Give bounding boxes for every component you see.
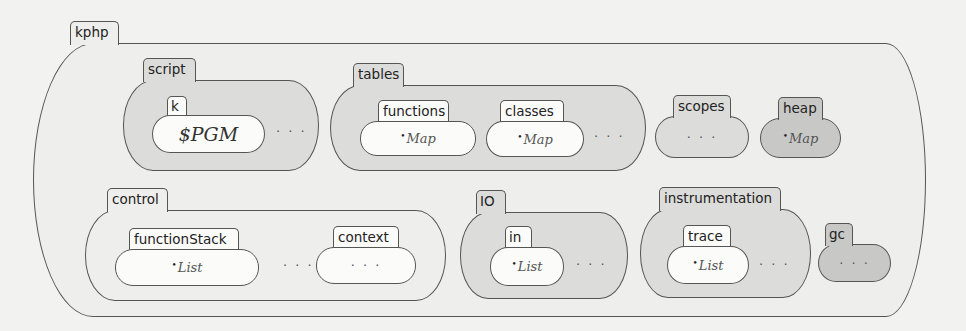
cell-tab-k: k: [167, 96, 187, 117]
ellipsis-instrumentation: · · ·: [759, 257, 790, 272]
cell-content-trace: •List: [693, 258, 724, 273]
cell-tab-scopes: scopes: [673, 95, 731, 118]
cell-content-heap: •Map: [783, 131, 819, 146]
cell-content-k: $PGM: [179, 123, 239, 145]
cell-label-scopes: scopes: [678, 98, 725, 114]
cell-content-in: •List: [512, 259, 543, 274]
cell-label-in: in: [509, 229, 521, 245]
cell-label-gc: gc: [829, 226, 845, 242]
cell-tab-classes: classes: [500, 100, 564, 123]
bullet-icon: •: [172, 260, 177, 270]
cell-body-functionStack: •List: [115, 249, 259, 286]
cell-body-scopes: · · ·: [655, 116, 749, 158]
cell-tab-IO: IO: [476, 190, 506, 214]
cell-label-script: script: [148, 61, 186, 77]
cell-tab-instrumentation: instrumentation: [659, 187, 781, 211]
bullet-icon: •: [517, 132, 522, 142]
cell-label-heap: heap: [783, 100, 817, 116]
cell-label-functions: functions: [383, 103, 445, 119]
cell-label-context: context: [338, 229, 389, 245]
cell-tab-in: in: [505, 226, 532, 249]
cell-body-heap: •Map: [760, 118, 841, 158]
cell-label-control: control: [112, 191, 159, 207]
cell-tab-tables: tables: [353, 63, 404, 87]
cell-label-kphp: kphp: [75, 24, 109, 40]
cell-tab-gc: gc: [825, 223, 853, 246]
cell-tab-control: control: [107, 188, 168, 212]
cell-content-functions: •Map: [400, 131, 436, 146]
cell-tab-script: script: [143, 58, 196, 82]
cell-tab-heap: heap: [778, 97, 823, 120]
cell-label-trace: trace: [688, 228, 723, 244]
bullet-icon: •: [783, 131, 788, 141]
cell-tab-context: context: [333, 226, 399, 249]
ellipsis-IO: · · ·: [576, 257, 607, 272]
ellipsis-scopes: · · ·: [687, 130, 718, 145]
ellipsis-script: · · ·: [276, 124, 307, 139]
cell-content-classes: •Map: [517, 132, 553, 147]
ellipsis-gc: · · ·: [839, 256, 870, 271]
cell-body-k: $PGM: [152, 115, 265, 153]
cell-label-functionStack: functionStack: [134, 231, 227, 247]
cell-body-in: •List: [490, 247, 564, 286]
cell-label-IO: IO: [480, 193, 495, 209]
cell-tab-trace: trace: [683, 225, 731, 248]
bullet-icon: •: [400, 131, 405, 141]
cell-label-classes: classes: [505, 103, 554, 119]
cell-content-functionStack: •List: [172, 260, 203, 275]
cell-label-k: k: [171, 98, 179, 114]
cell-body-trace: •List: [667, 246, 749, 284]
bullet-icon: •: [512, 259, 517, 269]
cell-label-tables: tables: [358, 66, 399, 82]
cell-tab-functionStack: functionStack: [129, 228, 239, 251]
ellipsis-control: · · ·: [283, 258, 314, 273]
bullet-icon: •: [693, 258, 698, 268]
cell-tab-kphp: kphp: [70, 21, 119, 45]
ellipsis-tables: · · ·: [594, 129, 625, 144]
cell-body-functions: •Map: [360, 121, 476, 156]
ellipsis-context: · · ·: [351, 258, 382, 273]
cell-body-classes: •Map: [486, 121, 584, 157]
cell-label-instrumentation: instrumentation: [664, 190, 772, 206]
cell-tab-functions: functions: [378, 100, 449, 123]
cell-body-context: · · ·: [316, 247, 416, 284]
cell-body-gc: · · ·: [818, 244, 891, 282]
